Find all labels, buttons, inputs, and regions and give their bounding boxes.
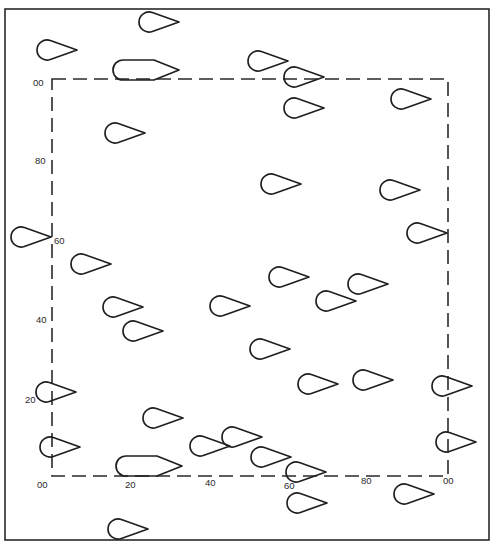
fish-icon — [353, 370, 393, 390]
fish-icon — [436, 432, 476, 452]
fish-icon — [284, 98, 324, 118]
x-axis-tick-label: 20 — [125, 479, 136, 490]
x-axis-tick-label: 80 — [361, 475, 372, 486]
fish-icon — [139, 12, 179, 32]
fish-icon — [251, 447, 291, 467]
fish-icon — [105, 123, 145, 143]
fish-layer — [11, 12, 476, 539]
fish-icon — [113, 60, 179, 80]
outer-frame — [5, 9, 489, 540]
y-axis-tick-label: 00 — [33, 77, 44, 88]
fish-icon — [432, 376, 472, 396]
y-axis-tick-label: 00 — [37, 479, 48, 490]
fish-icon — [71, 254, 111, 274]
x-axis-tick-label: 40 — [205, 477, 216, 488]
fish-icon — [269, 267, 309, 287]
fish-icon — [222, 427, 262, 447]
fish-icon — [11, 227, 51, 247]
fish-icon — [108, 519, 148, 539]
fish-icon — [316, 291, 356, 311]
fish-school-diagram: 0080604020002040608000 — [0, 0, 494, 549]
fish-icon — [103, 297, 143, 317]
fish-icon — [298, 374, 338, 394]
y-axis-tick-label: 60 — [54, 235, 65, 246]
fish-icon — [380, 180, 420, 200]
fish-icon — [116, 456, 182, 476]
fish-icon — [37, 40, 77, 60]
fish-icon — [36, 382, 76, 402]
y-axis-tick-label: 40 — [36, 314, 47, 325]
fish-icon — [248, 51, 288, 71]
fish-icon — [286, 462, 326, 482]
fish-icon — [284, 67, 324, 87]
fish-icon — [210, 296, 250, 316]
y-axis-tick-label: 20 — [25, 394, 36, 405]
x-axis-tick-label: 60 — [284, 480, 295, 491]
fish-icon — [287, 493, 327, 513]
fish-icon — [407, 223, 447, 243]
fish-icon — [40, 437, 80, 457]
y-axis-tick-label: 80 — [35, 155, 46, 166]
fish-icon — [348, 274, 388, 294]
fish-icon — [391, 89, 431, 109]
x-axis-tick-label: 00 — [443, 475, 454, 486]
fish-icon — [250, 339, 290, 359]
fish-icon — [394, 484, 434, 504]
fish-icon — [123, 321, 163, 341]
fish-icon — [261, 174, 301, 194]
fish-icon — [143, 408, 183, 428]
